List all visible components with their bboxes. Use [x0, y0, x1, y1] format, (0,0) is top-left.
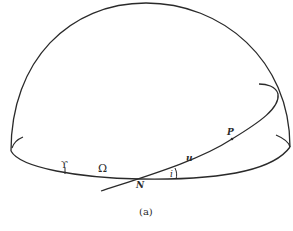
- u-label: u: [186, 154, 193, 163]
- orbit-curve: [101, 84, 278, 191]
- left-tick-arc: [12, 137, 23, 148]
- right-tick-arc: [276, 135, 290, 147]
- omega-label: Ω: [98, 163, 107, 174]
- celestial-sphere-diagram: [0, 0, 293, 231]
- aries-label: ϒ: [61, 160, 68, 170]
- point-p-marker: [231, 138, 234, 141]
- inclination-arc: [175, 168, 177, 179]
- figure-caption: (a): [139, 207, 153, 217]
- node-label: N: [136, 181, 144, 190]
- inclination-label: i: [170, 170, 173, 179]
- p-label: P: [227, 128, 234, 137]
